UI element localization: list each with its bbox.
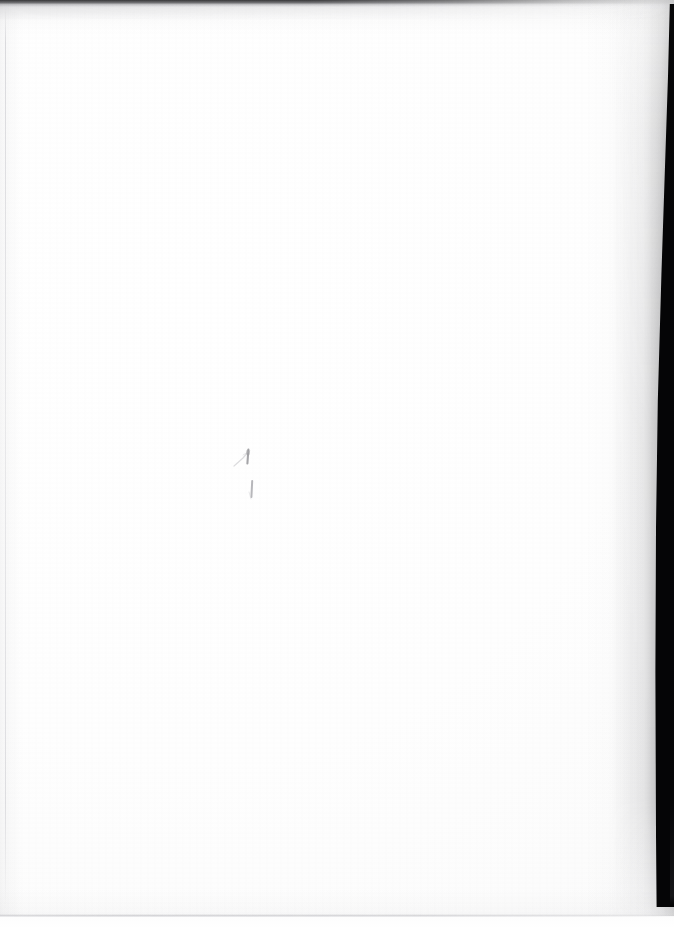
scanned-page [0,0,674,929]
page-body-text [64,60,610,860]
